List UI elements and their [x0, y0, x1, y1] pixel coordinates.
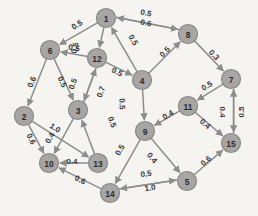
graph-diagram: 0.50.50.50.60.50.50.30.60.50.50.50.70.50… — [0, 0, 258, 216]
node-label: 13 — [93, 159, 103, 169]
node-label: 11 — [184, 102, 193, 112]
edge-weight-label: 0.5 — [110, 66, 124, 79]
edge-weight-label: 0.5 — [237, 106, 246, 118]
node-label: 4 — [140, 76, 145, 86]
edge-weight-label: 0.6 — [26, 75, 39, 89]
graph-node-2[interactable]: 2 — [15, 107, 34, 126]
graph-edge — [99, 27, 104, 47]
node-label: 15 — [226, 139, 236, 149]
edge-weight-label: 1.0 — [144, 183, 157, 194]
graph-node-12[interactable]: 12 — [88, 49, 107, 68]
edge-weight-label: 0.6 — [73, 174, 87, 187]
graph-edge — [143, 89, 145, 120]
node-label: 1 — [104, 14, 109, 24]
edge-weight-label: 0.5 — [113, 142, 127, 157]
node-label: 8 — [186, 30, 191, 40]
graph-node-3[interactable]: 3 — [69, 101, 88, 120]
graph-node-15[interactable]: 15 — [222, 134, 241, 153]
node-label: 14 — [105, 189, 115, 199]
edge-weight-label: 0.5 — [67, 77, 79, 91]
edge-weight-label: 0.7 — [95, 85, 107, 99]
node-label: 7 — [229, 75, 234, 85]
graph-node-11[interactable]: 11 — [179, 97, 198, 116]
graph-node-8[interactable]: 8 — [179, 25, 198, 44]
graph-node-14[interactable]: 14 — [101, 184, 120, 203]
edge-weight-label: 0.4 — [66, 157, 78, 166]
graph-node-10[interactable]: 10 — [40, 154, 59, 173]
node-label: 6 — [48, 46, 53, 56]
graph-edge — [84, 69, 96, 102]
edge-weight-label: 0.6 — [140, 18, 153, 29]
graph-node-5[interactable]: 5 — [178, 172, 197, 191]
graph-node-13[interactable]: 13 — [89, 154, 108, 173]
edge-weight-label: 0.6 — [199, 154, 214, 168]
edge-weight-label: 0.5 — [117, 98, 127, 110]
node-label: 2 — [22, 112, 27, 122]
graph-node-9[interactable]: 9 — [136, 122, 155, 141]
edge-weight-label: 0.6 — [24, 132, 37, 147]
edge-weight-label: 0.4 — [198, 117, 213, 131]
node-label: 10 — [44, 159, 54, 169]
graph-node-4[interactable]: 4 — [133, 71, 152, 90]
node-label: 3 — [76, 106, 81, 116]
graph-node-7[interactable]: 7 — [222, 70, 241, 89]
edge-weight-label: 0.5 — [126, 33, 140, 48]
edge-weight-label: 0.4 — [145, 151, 159, 166]
node-label: 9 — [143, 127, 148, 137]
edge-weight-label: 0.4 — [218, 106, 227, 118]
edge-weight-label: 0.5 — [140, 169, 153, 180]
graph-node-6[interactable]: 6 — [41, 41, 60, 60]
node-label: 5 — [185, 177, 190, 187]
edge-weight-label: 0.5 — [158, 44, 173, 59]
graph-node-1[interactable]: 1 — [97, 9, 116, 28]
edge-weight-label: 0.5 — [70, 18, 85, 32]
graph-svg: 0.50.50.50.60.50.50.30.60.50.50.50.70.50… — [0, 0, 258, 216]
edge-weight-label: 0.3 — [207, 48, 222, 63]
edge-weight-label: 0.5 — [106, 115, 119, 129]
graph-edge — [82, 120, 95, 154]
node-label: 12 — [92, 54, 102, 64]
